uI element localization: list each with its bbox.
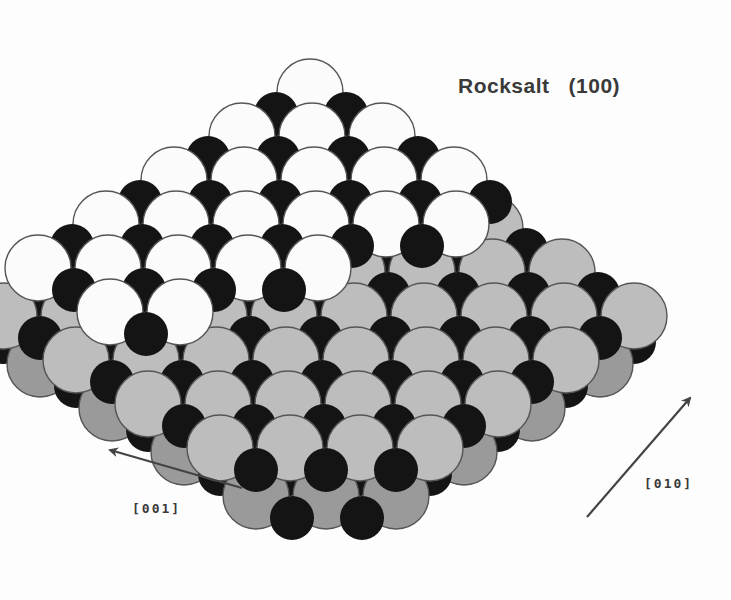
cation-atom <box>340 496 384 540</box>
cation-atom <box>270 496 314 540</box>
cation-atom <box>400 224 444 268</box>
atom-lattice <box>0 59 667 540</box>
axis-label-010: [010] <box>644 476 693 491</box>
cation-atom <box>262 268 306 312</box>
cation-atom <box>374 448 418 492</box>
cation-atom <box>234 448 278 492</box>
cation-atom <box>124 312 168 356</box>
axis-label-001: [001] <box>132 501 181 516</box>
rocksalt-surface-diagram <box>0 0 731 600</box>
figure-title: Rocksalt (100) <box>458 74 620 98</box>
cation-atom <box>304 448 348 492</box>
arrow-010 <box>587 398 690 517</box>
